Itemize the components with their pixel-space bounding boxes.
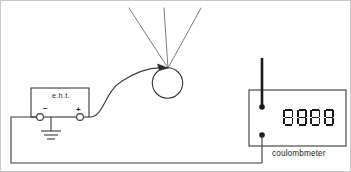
display-segment-e	[297, 118, 299, 124]
display-digit	[297, 109, 308, 126]
ray-group	[129, 8, 201, 68]
display-segment-d	[312, 124, 319, 126]
earth-ground-symbol	[41, 117, 61, 139]
eht-positive-sign-label: +	[76, 106, 81, 114]
display-segment-d	[299, 124, 306, 126]
eht-negative-wire	[11, 117, 262, 163]
charged-sphere	[152, 68, 182, 98]
display-digit	[283, 109, 294, 126]
display-digit	[324, 109, 335, 126]
coulombmeter-top-terminal	[259, 104, 265, 110]
ray-left	[129, 8, 168, 68]
eht-negative-terminal	[37, 114, 44, 121]
display-segment-e	[283, 118, 285, 124]
display-segment-g	[312, 117, 319, 119]
display-segment-g	[326, 117, 333, 119]
display-segment-e	[310, 118, 312, 124]
display-segment-g	[285, 117, 292, 119]
ray-right	[168, 8, 201, 68]
diagram-canvas: e.h.t. − + coulombmeter	[0, 0, 351, 172]
display-segment-g	[299, 117, 306, 119]
coulombmeter-label: coulombmeter	[272, 150, 326, 158]
eht-supply-label: e.h.t.	[52, 92, 70, 99]
circuit-diagram	[0, 0, 351, 172]
display-digit	[310, 109, 321, 126]
display-segment-d	[326, 124, 333, 126]
display-segment-d	[285, 124, 292, 126]
eht-positive-terminal	[77, 114, 84, 121]
eht-negative-sign-label: −	[43, 105, 48, 113]
ray-center	[164, 8, 168, 68]
eht-to-sphere-wire	[89, 68, 163, 117]
display-segment-e	[324, 118, 326, 124]
